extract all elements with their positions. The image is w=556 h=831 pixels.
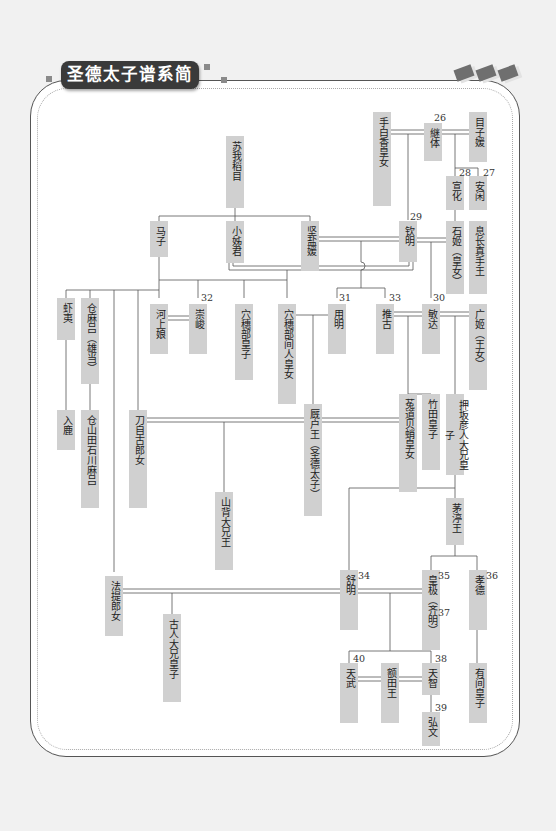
reign-number-ankan: 27 [483,167,495,178]
reign-number-bidatsu: 30 [433,292,445,303]
person-jomei: 舒明 [340,570,358,630]
reign-number-saimei: 37 [438,607,450,618]
person-iruka: 入鹿 [57,410,75,450]
person-temmu: 天武 [340,663,358,723]
person-anahobe-miko: 穴穗部皇子 [235,304,253,380]
person-okinaga: 息长真手王 [469,221,487,294]
person-umako: 马子 [150,221,168,257]
person-hiro: 广姬（王女） [469,304,487,390]
person-takeda: 竹田皇子 [422,394,440,470]
person-yamashiro: 山背大兄王 [215,492,233,570]
reign-number-yomei: 31 [339,292,351,303]
reign-number-sushun: 32 [201,292,213,303]
person-kinmei: 钦明 [399,221,417,262]
person-tojiko: 刀自古郎女 [129,410,147,508]
person-kitashi: 坚盐媛 [301,221,319,271]
person-soga-iname: 苏我稻目 [226,136,244,208]
person-tenji: 天智 [422,663,440,695]
reign-number-tenji: 38 [435,653,447,664]
person-kobun: 弘文 [422,712,440,746]
reign-number-kinmei: 29 [410,211,422,222]
person-kawakami: 河上娘 [150,304,168,354]
person-chinu: 茅渟王 [446,498,464,545]
reign-number-temmu: 40 [353,653,365,664]
reign-number-senka: 28 [459,167,471,178]
person-umayado: 厩户王（圣德太子） [304,404,322,516]
person-hote: 法提郎女 [105,576,123,636]
person-keitai: 継体 [424,123,442,161]
person-sushun: 崇峻 [189,304,207,354]
person-ankan: 安闲 [469,176,487,210]
reign-number-kotoku: 36 [486,570,498,581]
person-arima: 有间皇子 [469,663,487,723]
person-emishi: 虾夷 [57,298,75,340]
person-hashihito: 穴穗部间人皇女 [278,304,296,404]
reign-number-kogyoku: 35 [438,570,450,581]
person-tedai: 手白香皇女 [373,112,391,206]
person-yomei: 用明 [328,304,346,354]
person-senka: 宣化 [446,176,464,210]
person-ishihime: 石姬（皇女） [446,221,464,294]
person-koane: 小姊君 [226,221,244,263]
person-suiko: 推古 [376,304,394,354]
person-bidatsu: 敏达 [422,304,440,354]
person-oshisaka: 押坂彦人大兄皇子 [446,394,464,475]
reign-number-kobun: 39 [435,702,447,713]
reign-number-suiko: 33 [389,292,401,303]
person-menoko: 目子媛 [469,112,487,162]
reign-number-keitai: 26 [434,112,446,123]
person-furuhito: 古人大兄皇子 [163,614,181,702]
reign-number-jomei: 34 [358,570,370,581]
person-kurayamada-ishikawa: 仓山田石川麻吕 [81,410,99,508]
person-kotoku: 孝德 [469,570,487,630]
person-kurayamada-o: 仓麻吕（雄当） [81,298,99,384]
person-uji: 菟道贝蛸皇女 [399,394,417,492]
person-nukata: 额田王 [381,663,399,723]
